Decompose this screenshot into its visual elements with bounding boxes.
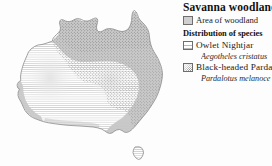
map-mainland (0, 0, 182, 166)
legend-subheading-distribution: Distribution of species (183, 28, 272, 39)
map-legend: Savanna woodland Area of woodland Distri… (183, 1, 272, 81)
savanna-woodland-figure: Savanna woodland Area of woodland Distri… (0, 0, 272, 166)
legend-label-black-headed-pardalote: Black-headed Pardal (196, 62, 272, 73)
map-tasmania (125, 143, 150, 165)
legend-scientific-name-black-headed-pardalote: Pardalotus melanoce (201, 74, 272, 84)
legend-label-woodland: Area of woodland (196, 15, 258, 26)
tasmania-hatch (125, 143, 150, 165)
legend-scientific-name-owlet-nightjar: Aegotheles cristatus (201, 52, 272, 62)
pardalote-stipple-core (59, 13, 151, 52)
woodland-swatch-icon (183, 16, 193, 25)
legend-title: Savanna woodland (183, 1, 272, 14)
black-headed-pardalote-swatch-icon (183, 63, 193, 72)
australia-map-panel (0, 0, 182, 166)
legend-item-woodland: Area of woodland (183, 15, 272, 27)
australia-map-svg (0, 0, 182, 166)
legend-item-black-headed-pardalote: Black-headed Pardal (183, 62, 272, 74)
owlet-nightjar-swatch-icon (183, 41, 193, 50)
legend-label-owlet-nightjar: Owlet Nightjar (196, 40, 253, 51)
legend-item-owlet-nightjar: Owlet Nightjar (183, 40, 272, 52)
